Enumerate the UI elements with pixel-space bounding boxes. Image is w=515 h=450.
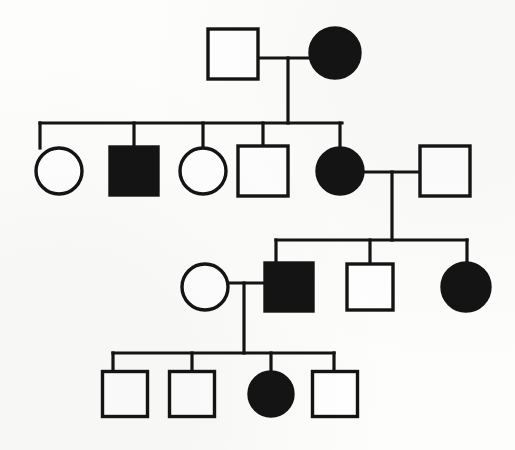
individual-symbols-layer — [36, 28, 490, 417]
individual-ii-1-circle-unaffected — [36, 148, 82, 194]
individual-iv-4-square-unaffected — [313, 372, 358, 417]
individual-ii-2-square-affected — [110, 147, 158, 195]
pedigree-canvas — [0, 0, 515, 450]
individual-iii-3-square-unaffected — [347, 264, 393, 310]
individual-ii-5-circle-affected — [317, 148, 363, 194]
individual-ii-3-circle-unaffected — [180, 148, 226, 194]
individual-i-2-circle-affected — [310, 28, 360, 78]
pedigree-chart — [0, 0, 515, 450]
individual-iv-2-square-unaffected — [170, 372, 215, 417]
individual-iv-3-circle-affected — [249, 372, 293, 416]
individual-ii-6-square-unaffected — [420, 146, 470, 196]
individual-iii-4-circle-affected — [442, 263, 490, 311]
individual-iii-1-circle-unaffected — [182, 264, 228, 310]
individual-iii-2-square-affected — [265, 263, 313, 311]
connection-lines-layer — [40, 58, 467, 378]
individual-iv-1-square-unaffected — [103, 372, 148, 417]
individual-ii-4-square-unaffected — [238, 146, 288, 196]
individual-i-1-square-unaffected — [208, 29, 258, 79]
